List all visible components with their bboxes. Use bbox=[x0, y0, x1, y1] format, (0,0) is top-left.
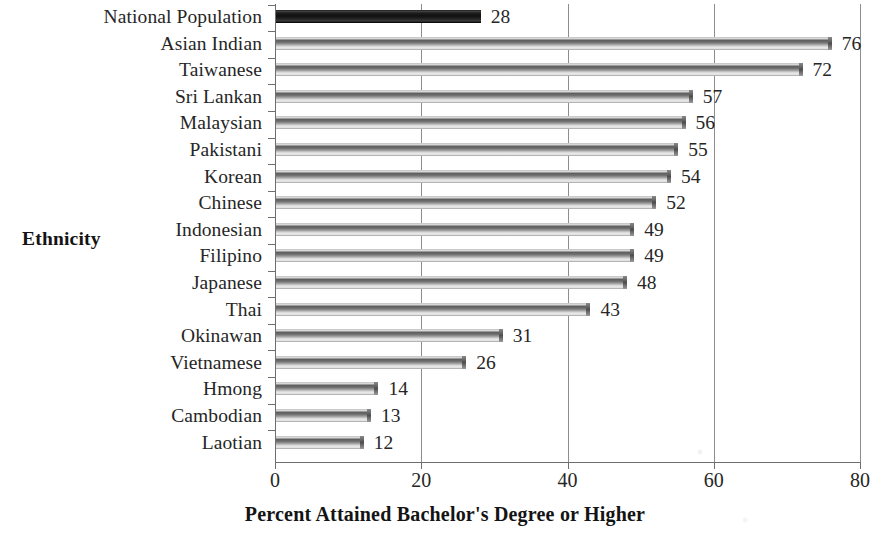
bar-row: Chinese52 bbox=[0, 190, 890, 217]
x-axis-tick bbox=[568, 462, 569, 469]
bar-container bbox=[276, 190, 656, 217]
bar-value-label: 28 bbox=[491, 4, 511, 31]
bar-container bbox=[276, 270, 627, 297]
bar bbox=[276, 63, 803, 76]
bar-row: Indonesian49 bbox=[0, 217, 890, 244]
bar bbox=[276, 356, 466, 369]
bar bbox=[276, 90, 693, 103]
bar-container bbox=[276, 4, 481, 31]
bar-row: Japanese48 bbox=[0, 270, 890, 297]
bar bbox=[276, 196, 656, 209]
bar-container bbox=[276, 137, 678, 164]
bar bbox=[276, 409, 371, 422]
bar-value-label: 54 bbox=[681, 164, 701, 191]
category-label: Korean bbox=[0, 164, 262, 191]
bar-end-cap bbox=[828, 37, 832, 50]
category-label: Okinawan bbox=[0, 323, 262, 350]
bar-value-label: 57 bbox=[703, 84, 723, 111]
category-label: National Population bbox=[0, 4, 262, 31]
bar-end-cap bbox=[623, 276, 627, 289]
bar-value-label: 26 bbox=[476, 350, 496, 377]
bar-row: Malaysian56 bbox=[0, 110, 890, 137]
bar bbox=[276, 436, 364, 449]
bar-container bbox=[276, 84, 693, 111]
bar-row: Asian Indian76 bbox=[0, 31, 890, 58]
x-axis-tick bbox=[714, 462, 715, 469]
category-label: Pakistani bbox=[0, 137, 262, 164]
bar bbox=[276, 10, 481, 23]
bar-row: National Population28 bbox=[0, 4, 890, 31]
bar-value-label: 13 bbox=[381, 403, 401, 430]
category-label: Taiwanese bbox=[0, 57, 262, 84]
bar-end-cap bbox=[630, 223, 634, 236]
category-label: Asian Indian bbox=[0, 31, 262, 58]
bar-container bbox=[276, 217, 634, 244]
x-axis-tick bbox=[275, 462, 276, 469]
bar-container bbox=[276, 430, 364, 457]
bar-end-cap bbox=[667, 170, 671, 183]
bar-row: Korean54 bbox=[0, 164, 890, 191]
bar-value-label: 14 bbox=[388, 376, 408, 403]
bar-end-cap bbox=[630, 249, 634, 262]
category-label: Malaysian bbox=[0, 110, 262, 137]
bar bbox=[276, 329, 503, 342]
bar-container bbox=[276, 403, 371, 430]
category-label: Cambodian bbox=[0, 403, 262, 430]
bar-value-label: 49 bbox=[644, 217, 664, 244]
x-axis-tick-label: 80 bbox=[830, 469, 890, 492]
bar bbox=[276, 303, 590, 316]
bar-end-cap bbox=[374, 382, 378, 395]
bar-end-cap bbox=[367, 409, 371, 422]
bar-value-label: 56 bbox=[696, 110, 716, 137]
bar-container bbox=[276, 243, 634, 270]
bar-container bbox=[276, 376, 378, 403]
bar bbox=[276, 276, 627, 289]
bar-row: Taiwanese72 bbox=[0, 57, 890, 84]
bar-row: Thai43 bbox=[0, 297, 890, 324]
category-label: Vietnamese bbox=[0, 350, 262, 377]
bar-container bbox=[276, 110, 686, 137]
bar bbox=[276, 223, 634, 236]
bar-value-label: 48 bbox=[637, 270, 657, 297]
bar bbox=[276, 143, 678, 156]
bar-row: Okinawan31 bbox=[0, 323, 890, 350]
bar bbox=[276, 382, 378, 395]
category-label: Thai bbox=[0, 297, 262, 324]
x-axis-tick-label: 20 bbox=[391, 469, 451, 492]
x-axis-tick bbox=[860, 462, 861, 469]
x-axis-tick-label: 40 bbox=[538, 469, 598, 492]
bar-chart: Ethnicity 020406080 National Population2… bbox=[0, 0, 890, 536]
x-axis-tick-label: 60 bbox=[684, 469, 744, 492]
bar-value-label: 72 bbox=[813, 57, 833, 84]
bar-value-label: 52 bbox=[666, 190, 686, 217]
bar-value-label: 49 bbox=[644, 243, 664, 270]
bar-value-label: 12 bbox=[374, 430, 394, 457]
bar-end-cap bbox=[499, 329, 503, 342]
bar bbox=[276, 116, 686, 129]
category-label: Sri Lankan bbox=[0, 84, 262, 111]
bar-end-cap bbox=[360, 436, 364, 449]
category-label: Laotian bbox=[0, 430, 262, 457]
category-label: Indonesian bbox=[0, 217, 262, 244]
bar-value-label: 55 bbox=[688, 137, 708, 164]
bar-value-label: 31 bbox=[513, 323, 533, 350]
bar-container bbox=[276, 31, 832, 58]
category-label: Japanese bbox=[0, 270, 262, 297]
bar-container bbox=[276, 323, 503, 350]
bar bbox=[276, 37, 832, 50]
bar-row: Cambodian13 bbox=[0, 403, 890, 430]
bar-end-cap bbox=[586, 303, 590, 316]
bar-container bbox=[276, 297, 590, 324]
bar-row: Filipino49 bbox=[0, 243, 890, 270]
bar bbox=[276, 249, 634, 262]
bar-end-cap bbox=[799, 63, 803, 76]
bar-row: Pakistani55 bbox=[0, 137, 890, 164]
category-label: Filipino bbox=[0, 243, 262, 270]
bar-end-cap bbox=[682, 116, 686, 129]
bar bbox=[276, 170, 671, 183]
bar-end-cap bbox=[462, 356, 466, 369]
bar-row: Vietnamese26 bbox=[0, 350, 890, 377]
bar-row: Hmong14 bbox=[0, 376, 890, 403]
category-label: Hmong bbox=[0, 376, 262, 403]
bar-end-cap bbox=[689, 90, 693, 103]
